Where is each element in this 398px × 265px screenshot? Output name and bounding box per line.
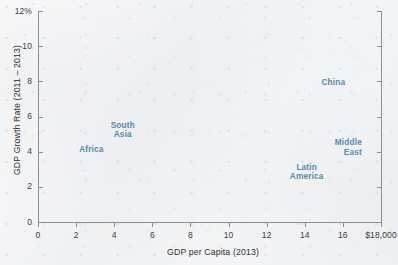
y-axis-tick-label: 8 — [27, 77, 32, 86]
x-axis-tick — [114, 223, 115, 227]
x-axis-tick — [267, 223, 268, 227]
x-axis-line — [38, 222, 382, 223]
x-axis-tick — [152, 223, 153, 227]
right-axis-tick — [377, 152, 381, 153]
y-axis-title: GDP Growth Rate (2011 – 2013) — [12, 4, 22, 216]
y-axis-tick — [39, 46, 43, 47]
y-axis-tick — [39, 187, 43, 188]
x-axis-tick-label: 16 — [338, 230, 348, 240]
x-axis-tick-label: 14 — [300, 230, 310, 240]
x-axis-tick-label: 2 — [74, 230, 79, 240]
x-axis-tick-label: 0 — [36, 230, 41, 240]
right-axis-tick — [377, 117, 381, 118]
y-axis-tick — [39, 11, 43, 12]
data-point-label-china: China — [321, 78, 345, 88]
data-point-label-latin-america: Latin America — [290, 163, 324, 182]
x-axis-tick-label: 8 — [188, 230, 193, 240]
y-axis-tick-label: 6 — [27, 112, 32, 121]
y-axis-tick-label: 10 — [22, 42, 32, 51]
y-axis-tick — [39, 222, 43, 223]
x-axis-tick — [190, 223, 191, 227]
x-axis-tick-label: 10 — [224, 230, 234, 240]
x-axis-tick-label: 4 — [112, 230, 117, 240]
paper-texture-overlay — [0, 0, 398, 265]
y-axis-tick — [39, 117, 43, 118]
data-point-label-middle-east: Middle East — [335, 139, 362, 158]
x-axis-tick — [305, 223, 306, 227]
right-axis-tick — [377, 11, 381, 12]
right-axis-tick — [377, 46, 381, 47]
x-axis-tick-label: 6 — [150, 230, 155, 240]
x-axis-tick — [76, 223, 77, 227]
data-point-label-south-asia: South Asia — [111, 121, 135, 140]
x-axis-tick — [343, 223, 344, 227]
x-axis-tick-label: $18,000 — [365, 230, 396, 240]
x-axis-tick-label: 12 — [262, 230, 272, 240]
right-axis-line — [381, 11, 382, 223]
x-axis-title: GDP per Capita (2013) — [0, 247, 398, 257]
y-axis-tick-label: 4 — [27, 147, 32, 156]
gdp-scatter-chart: 024681012% 0246810121416$18,000 AfricaSo… — [0, 0, 398, 265]
y-axis-tick-label: 2 — [27, 182, 32, 191]
y-axis-tick-label: 0 — [27, 218, 32, 227]
x-axis-tick — [229, 223, 230, 227]
y-axis-tick — [39, 152, 43, 153]
data-point-label-africa: Africa — [79, 145, 103, 155]
right-axis-tick — [377, 187, 381, 188]
x-axis-tick — [381, 223, 382, 227]
y-axis-tick — [39, 81, 43, 82]
x-axis-tick — [38, 223, 39, 227]
right-axis-tick — [377, 81, 381, 82]
